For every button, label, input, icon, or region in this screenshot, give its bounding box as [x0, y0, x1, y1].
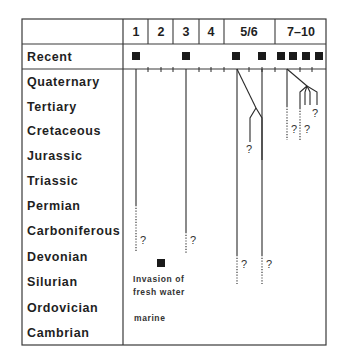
question-mark: ? — [291, 123, 297, 135]
column-label-4: 4 — [208, 25, 215, 39]
period-devonian: Devonian — [27, 250, 88, 264]
phylogeny-diagram: 1 2 3 4 5/6 7–10 Recent Quaternary Terti… — [0, 0, 341, 361]
marker-square — [302, 52, 310, 60]
marker-square — [315, 52, 323, 60]
period-cambrian: Cambrian — [27, 326, 89, 340]
question-mark: ? — [246, 143, 252, 155]
period-cretaceous: Cretaceous — [27, 124, 101, 138]
column-label-7-10: 7–10 — [287, 25, 315, 39]
question-mark: ? — [312, 107, 318, 119]
marker-square — [277, 52, 285, 60]
marker-square — [289, 52, 297, 60]
period-permian: Permian — [27, 199, 81, 213]
question-marks: ? ? ? ? ? ? ? ? — [140, 107, 318, 270]
period-carboniferous: Carboniferous — [27, 224, 120, 238]
period-quaternary: Quaternary — [27, 75, 100, 89]
period-jurassic: Jurassic — [27, 149, 83, 163]
branch-7-10-diagonal — [287, 69, 307, 86]
period-labels: Recent Quaternary Tertiary Cretaceous Ju… — [27, 50, 120, 340]
question-mark: ? — [266, 258, 272, 270]
question-mark: ? — [241, 258, 247, 270]
period-triassic: Triassic — [27, 174, 78, 188]
column-label-1: 1 — [133, 25, 140, 39]
column-label-5-6: 5/6 — [240, 25, 257, 39]
marker-square — [182, 52, 190, 60]
question-mark: ? — [140, 234, 146, 246]
period-tertiary: Tertiary — [27, 100, 77, 114]
branch-5-6-right — [256, 108, 262, 160]
marine-label: marine — [134, 313, 165, 323]
marker-square — [132, 52, 140, 60]
period-silurian: Silurian — [27, 275, 78, 289]
lineages — [136, 69, 317, 284]
branch-5-6-left — [250, 108, 256, 142]
branch-7-10-b — [305, 86, 307, 105]
marker-square — [258, 52, 266, 60]
invasion-label-line2: fresh water — [133, 287, 185, 297]
branch-7-10-c — [307, 86, 310, 105]
recent-markers — [132, 52, 323, 60]
question-mark: ? — [190, 234, 196, 246]
branch-5-6-diagonal — [237, 69, 256, 108]
period-ordovician: Ordovician — [27, 301, 98, 315]
marker-square — [232, 52, 240, 60]
question-mark: ? — [304, 123, 310, 135]
invasion-label-line1: Invasion of — [133, 274, 184, 284]
column-label-2: 2 — [158, 25, 165, 39]
column-label-3: 3 — [183, 25, 190, 39]
freshwater-invasion-marker — [157, 259, 165, 267]
period-recent: Recent — [27, 50, 73, 64]
